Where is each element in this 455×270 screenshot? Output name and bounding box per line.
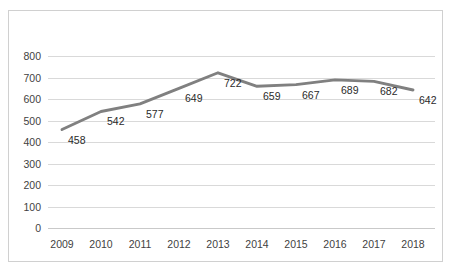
data-point-label: 649 [185, 92, 203, 104]
data-point-label: 689 [341, 84, 359, 96]
data-point-label: 642 [419, 94, 437, 106]
y-axis-tick-label: 0 [35, 222, 41, 234]
data-point-label: 667 [302, 89, 320, 101]
x-axis-tick-label: 2015 [284, 238, 308, 250]
y-axis-tick-label: 700 [23, 72, 41, 84]
y-axis-tick-label: 600 [23, 93, 41, 105]
y-axis-tick-label: 500 [23, 115, 41, 127]
x-axis-tick-label: 2018 [401, 238, 425, 250]
x-axis-tick-label: 2010 [89, 238, 113, 250]
y-axis-tick-label: 400 [23, 136, 41, 148]
data-point-label: 722 [224, 77, 242, 89]
x-axis-tick-label: 2011 [129, 238, 152, 250]
y-axis-tick-label: 800 [23, 50, 41, 62]
x-axis-tick-label: 2016 [323, 238, 347, 250]
x-axis-tick-label: 2009 [50, 238, 74, 250]
y-axis-tick-label: 200 [23, 179, 41, 191]
data-point-label: 577 [146, 108, 164, 120]
x-axis-tick-label: 2017 [362, 238, 386, 250]
data-point-label: 458 [68, 134, 86, 146]
y-axis-tick-label: 100 [23, 201, 41, 213]
x-axis-tick-label: 2013 [206, 238, 230, 250]
x-axis-tick-label: 2012 [167, 238, 191, 250]
y-axis-tick-label: 300 [23, 158, 41, 170]
y-axis-tick-labels: 8007006005004003002001000 [23, 50, 41, 234]
data-point-label: 542 [107, 115, 125, 127]
chart-container: 8007006005004003002001000 20092010201120… [0, 0, 455, 270]
x-axis-tick-label: 2014 [245, 238, 269, 250]
data-point-label: 682 [380, 85, 398, 97]
line-chart: 8007006005004003002001000 20092010201120… [0, 0, 455, 270]
data-point-label: 659 [263, 90, 281, 102]
